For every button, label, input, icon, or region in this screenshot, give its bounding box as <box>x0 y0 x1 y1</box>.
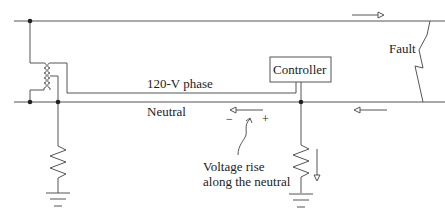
controller-label: Controller <box>273 63 326 76</box>
phase-label: 120-V phase <box>147 77 213 90</box>
ground-resistor-load <box>289 102 313 207</box>
current-arrow-neutral-right <box>354 107 387 113</box>
junction-dots <box>28 19 304 105</box>
minus-sign: − <box>226 113 233 125</box>
ground-resistor-source <box>46 102 70 206</box>
fault-arc <box>415 21 430 102</box>
voltage-rise-arrow <box>230 107 263 113</box>
ground-current-arrow <box>314 149 320 181</box>
fault-label: Fault <box>389 42 416 55</box>
plus-sign: + <box>262 113 269 125</box>
voltage-rise-pointer <box>238 119 250 155</box>
neutral-label: Neutral <box>147 105 186 118</box>
voltage-rise-label-line2: along the neutral <box>203 175 290 188</box>
voltage-rise-label-line1: Voltage rise <box>203 160 265 173</box>
current-arrow-top <box>352 12 384 18</box>
